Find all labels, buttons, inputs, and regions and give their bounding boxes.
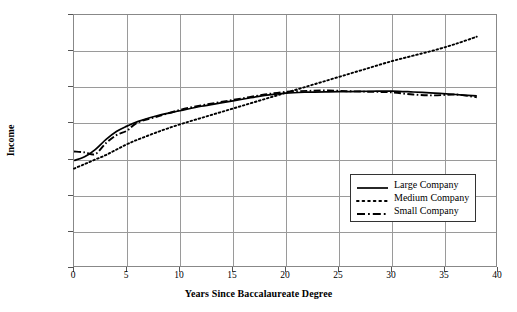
x-tick-label: 35 <box>424 271 464 281</box>
legend-item: Small Company <box>356 204 469 217</box>
plot-area <box>73 14 497 267</box>
legend-label: Medium Company <box>394 192 469 203</box>
x-tick-label: 5 <box>106 271 146 281</box>
chart-legend: Large CompanyMedium CompanySmall Company <box>350 174 476 222</box>
legend-item: Large Company <box>356 178 469 191</box>
income-line-chart: Income $0$20,000$40,000$60,000$80,000$10… <box>0 0 517 312</box>
series-line-large-company <box>74 91 477 160</box>
x-tick-label: 25 <box>318 271 358 281</box>
legend-label: Small Company <box>394 205 459 216</box>
legend-label: Large Company <box>394 179 459 190</box>
x-axis-title: Years Since Baccalaureate Degree <box>0 288 517 299</box>
legend-item: Medium Company <box>356 191 469 204</box>
y-axis-title: Income <box>2 0 20 281</box>
legend-swatch-solid <box>356 179 389 190</box>
y-axis-title-label: Income <box>6 125 17 157</box>
x-tick-label: 15 <box>212 271 252 281</box>
x-tick-label: 10 <box>159 271 199 281</box>
legend-swatch-dotted <box>356 192 389 203</box>
x-tick-label: 30 <box>371 271 411 281</box>
x-tick-label: 20 <box>265 271 305 281</box>
x-tick-label: 40 <box>477 271 517 281</box>
legend-swatch-dashdot <box>356 205 389 216</box>
series-line-medium-company <box>74 37 477 169</box>
x-tick-label: 0 <box>53 271 93 281</box>
series-lines <box>74 15 498 268</box>
